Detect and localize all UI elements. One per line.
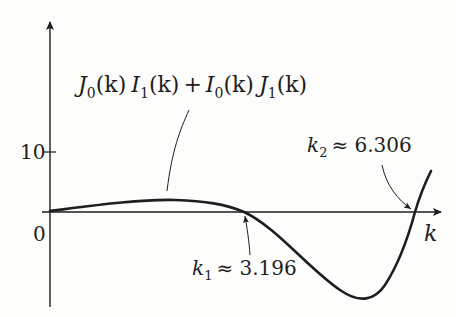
function-label-leader: [167, 110, 189, 191]
origin-label: 0: [33, 222, 46, 246]
svg-text:J0(k)I1(k)+I0(k)J1(k): J0(k)I1(k)+I0(k)J1(k): [74, 72, 307, 101]
k1-arrow: [245, 216, 250, 255]
k2-arrow: [382, 165, 411, 209]
k2-annotation: k2≈ 6.306: [307, 133, 412, 160]
plot: 10 0 k J0(k)I1(k)+I0(k)J1(k) k1≈ 3.196 k…: [0, 0, 456, 317]
k1-annotation: k1≈ 3.196: [192, 256, 297, 283]
y-tick-label-10: 10: [20, 140, 45, 164]
x-axis-label: k: [424, 221, 437, 246]
function-label: J0(k)I1(k)+I0(k)J1(k): [74, 72, 307, 101]
svg-text:k1≈ 3.196: k1≈ 3.196: [192, 256, 297, 283]
svg-text:k2≈ 6.306: k2≈ 6.306: [307, 133, 412, 160]
